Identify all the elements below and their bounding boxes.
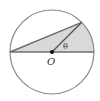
shaded-region (10, 22, 94, 52)
center-label: O (47, 56, 55, 67)
angle-label: θ (63, 42, 68, 51)
circle-diagram: θ O (0, 0, 100, 101)
center-point (50, 50, 54, 54)
